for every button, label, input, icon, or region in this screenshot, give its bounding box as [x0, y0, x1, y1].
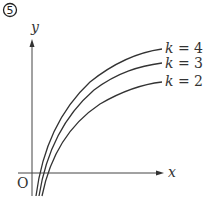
y-axis-label: y	[30, 19, 40, 35]
curve-label-k3: k = 3	[165, 55, 203, 71]
x-axis-arrow-icon	[156, 171, 164, 176]
curve-k3	[39, 63, 162, 196]
curve-label-k4: k = 4	[165, 40, 203, 56]
graph-figure: 5 y x O k = 4 k = 3 k = 2	[0, 0, 204, 202]
x-axis-label: x	[168, 164, 176, 180]
curve-label-k2: k = 2	[165, 73, 203, 89]
figure-number-badge: 5	[4, 4, 17, 18]
origin-label: O	[17, 175, 28, 191]
curve-k2	[42, 82, 162, 196]
curve-k4	[36, 49, 162, 196]
y-axis-arrow-icon	[30, 39, 35, 47]
figure-number: 5	[7, 4, 14, 17]
